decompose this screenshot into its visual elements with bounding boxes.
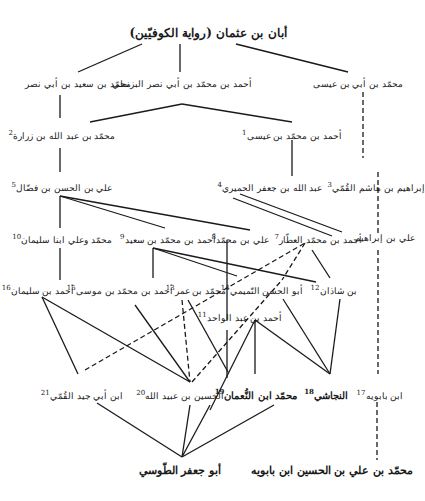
node-label: ابن أبي جيد القُمّي [50,391,124,401]
node-number: 16 [2,284,11,292]
node-number: 11 [198,311,207,319]
node-number: 17 [357,389,366,397]
node-16-ahmad-b-sulayman: أحمد بن سليمان16 [2,282,75,297]
node-label: علي بن إبراهيم [355,233,415,243]
node-number: 19 [215,387,225,396]
node-number: 21 [41,389,50,397]
node-20-husayn-b-ubaydallah: الحسين بن عبيد الله20 [136,387,224,402]
node-13-muhammad-b-umar: محمّد بن عمر13 [166,282,227,297]
node-label: أحمد بن محمّد بن عيسى [247,131,342,141]
node-7-attar: أحمد بن محمّد العطّار7 [274,231,361,246]
node-label: أحمد بن عبد الواحد [207,313,283,323]
node-8-ali-b-muhammad: علي بن محمّد8 [211,231,268,246]
node-number: 10 [12,233,21,241]
node-label: محمّد وعلي ابنا سليمان [21,235,112,245]
node-label: علي بن الحسن بن فضّال [16,183,112,193]
node-3-ibrahim-qummi: إبراهيم بن هاشم القُمّي3 [327,179,424,194]
node-label: محمّد بن عمر [175,286,227,296]
node-number: 20 [136,389,145,397]
node-label: محمّد ابن النُّعمان [224,390,297,401]
node-17-ibn-babawayh: ابن بابويه17 [357,387,404,402]
node-label: النجاشي [314,390,348,401]
node-9-ibn-said: أحمد بن محمّد بن سعيد9 [120,231,216,246]
node-muhammad-b-abi-isa: محمّد بن أبي بن عيسى [313,78,403,90]
node-5-ibn-faddal: علي بن الحسن بن فضّال5 [12,179,113,194]
node-1-ahmad-b-isa: أحمد بن محمّد بن عيسى1 [242,127,342,142]
node-10-ibna-sulayman: محمّد وعلي ابنا سليمان10 [12,231,112,246]
node-label: أبو الحسن التّميمي [230,286,304,296]
node-18-najashi: النجاشي18 [304,386,348,401]
node-number: 14 [221,284,230,292]
node-saduq: محمّد بن علي بن الحسين ابن بابويه [251,465,413,477]
node-2-ibn-zurara: محمّد بن عبد الله بن زرارة2 [9,127,116,142]
node-label: أحمد بن سليمان [11,286,75,296]
node-label: بن شاذان [320,286,358,296]
node-12-ibn-shadhan: بن شاذان12 [311,282,358,297]
node-abu-jafar-tusi: أبو جعفر الطّوسي [139,465,222,477]
node-15-ahmad-b-musa: أحمد بن محمّد بن موسى15 [67,282,173,297]
node-19-ibn-numan: محمّد ابن النُّعمان19 [215,386,298,401]
node-label: أحمد بن محمّد بن سعيد [125,235,216,245]
node-label: أحمد بن محمّد العطّار [279,235,362,245]
node-14-tamimi: أبو الحسن التّميمي14 [221,282,304,297]
node-label: عبد الله بن جعفر الحميري [222,183,322,193]
node-number: 12 [311,284,320,292]
node-11-ibn-abd-al-wahid: أحمد بن عبد الواحد11 [198,309,283,324]
node-number: 15 [67,284,76,292]
node-ali-b-ibrahim: علي بن إبراهيم [355,232,415,244]
node-label: ابن بابويه [366,391,404,401]
node-label: أحمد بن محمّد بن موسى [76,286,173,296]
node-number: 13 [166,284,175,292]
node-bazanti: أحمد بن محمّد بن أبي نصر البزنطي [112,78,251,90]
node-number: 18 [304,387,314,396]
node-label: الحسين بن عبيد الله [145,391,224,401]
node-4-himyari: عبد الله بن جعفر الحميري4 [218,179,323,194]
node-21-ibn-abi-jid: ابن أبي جيد القُمّي21 [41,387,124,402]
node-aban-root: أبان بن عثمان (رواية الكوفيّين) [129,27,286,39]
node-label: إبراهيم بن هاشم القُمّي [332,183,425,193]
node-label: محمّد بن عبد الله بن زرارة [13,131,115,141]
node-label: علي بن محمّد [216,235,269,245]
